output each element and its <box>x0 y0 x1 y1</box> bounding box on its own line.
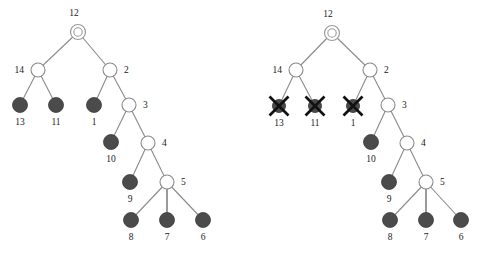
node-label-7: 7 <box>165 232 170 242</box>
node-circle-open <box>289 63 303 77</box>
tree-node-5[interactable] <box>160 175 174 189</box>
tree-node-10[interactable] <box>364 135 379 150</box>
node-circle-filled <box>13 98 28 113</box>
tree-node-5[interactable] <box>419 175 433 189</box>
tree-node-11[interactable] <box>306 97 325 116</box>
tree-node-2[interactable] <box>363 63 377 77</box>
tree-node-1[interactable] <box>344 97 363 116</box>
tree-node-7[interactable] <box>419 213 434 228</box>
node-label-14: 14 <box>273 65 283 75</box>
node-inner-circle <box>74 28 82 36</box>
node-label-6: 6 <box>201 232 206 242</box>
node-label-4: 4 <box>421 138 426 148</box>
node-circle-filled <box>454 213 469 228</box>
node-circle-open <box>363 63 377 77</box>
node-circle-filled <box>364 135 379 150</box>
node-label-12: 12 <box>69 8 79 18</box>
node-label-2: 2 <box>124 65 129 75</box>
node-label-6: 6 <box>459 232 464 242</box>
node-label-3: 3 <box>143 100 148 110</box>
nodes-layer <box>13 25 469 228</box>
node-circle-filled <box>382 175 397 190</box>
node-label-3: 3 <box>402 100 407 110</box>
node-circle-open <box>141 136 155 150</box>
node-label-10: 10 <box>366 154 376 164</box>
tree-node-3[interactable] <box>122 98 136 112</box>
node-circle-filled <box>49 98 64 113</box>
node-circle-filled <box>87 98 102 113</box>
tree-figure: 12142131113104958761214213111310495876 <box>0 0 478 257</box>
node-label-12: 12 <box>323 9 333 19</box>
node-circle-open <box>419 175 433 189</box>
node-label-8: 8 <box>129 232 134 242</box>
node-label-1: 1 <box>92 117 97 127</box>
node-circle-open <box>31 63 45 77</box>
labels-layer: 12142131113104958761214213111310495876 <box>15 8 464 242</box>
node-label-11: 11 <box>310 118 319 128</box>
tree-node-9[interactable] <box>123 175 138 190</box>
tree-node-9[interactable] <box>382 175 397 190</box>
tree-node-6[interactable] <box>196 213 211 228</box>
node-circle-open <box>122 98 136 112</box>
node-circle-filled <box>196 213 211 228</box>
node-circle-open <box>381 98 395 112</box>
node-label-13: 13 <box>15 117 25 127</box>
tree-node-11[interactable] <box>49 98 64 113</box>
tree-node-13[interactable] <box>13 98 28 113</box>
node-label-5: 5 <box>440 177 445 187</box>
node-label-9: 9 <box>128 194 133 204</box>
node-inner-circle <box>328 29 336 37</box>
tree-node-3[interactable] <box>381 98 395 112</box>
tree-node-7[interactable] <box>160 213 175 228</box>
node-circle-filled <box>160 213 175 228</box>
tree-edge-12-14 <box>38 32 78 70</box>
tree-diagram-canvas: 12142131113104958761214213111310495876 <box>0 0 478 257</box>
node-label-1: 1 <box>351 118 356 128</box>
tree-node-14[interactable] <box>289 63 303 77</box>
node-label-14: 14 <box>15 65 25 75</box>
node-circle-filled <box>124 213 139 228</box>
tree-node-13[interactable] <box>270 97 289 116</box>
node-label-11: 11 <box>51 117 60 127</box>
node-label-10: 10 <box>106 154 116 164</box>
node-label-8: 8 <box>388 232 393 242</box>
node-circle-open <box>160 175 174 189</box>
node-circle-open <box>400 136 414 150</box>
tree-node-12[interactable] <box>71 25 86 40</box>
tree-node-12[interactable] <box>325 26 340 41</box>
node-label-5: 5 <box>181 177 186 187</box>
node-label-2: 2 <box>384 65 389 75</box>
node-circle-filled <box>123 175 138 190</box>
node-circle-open <box>103 63 117 77</box>
tree-node-10[interactable] <box>104 135 119 150</box>
node-label-7: 7 <box>424 232 429 242</box>
node-circle-filled <box>383 213 398 228</box>
tree-node-6[interactable] <box>454 213 469 228</box>
tree-node-4[interactable] <box>400 136 414 150</box>
tree-node-2[interactable] <box>103 63 117 77</box>
tree-node-8[interactable] <box>124 213 139 228</box>
node-label-13: 13 <box>274 118 284 128</box>
edges-layer <box>20 32 461 220</box>
tree-node-4[interactable] <box>141 136 155 150</box>
tree-node-14[interactable] <box>31 63 45 77</box>
node-circle-filled <box>104 135 119 150</box>
tree-node-1[interactable] <box>87 98 102 113</box>
tree-node-8[interactable] <box>383 213 398 228</box>
node-label-9: 9 <box>387 194 392 204</box>
node-circle-filled <box>419 213 434 228</box>
node-label-4: 4 <box>162 138 167 148</box>
